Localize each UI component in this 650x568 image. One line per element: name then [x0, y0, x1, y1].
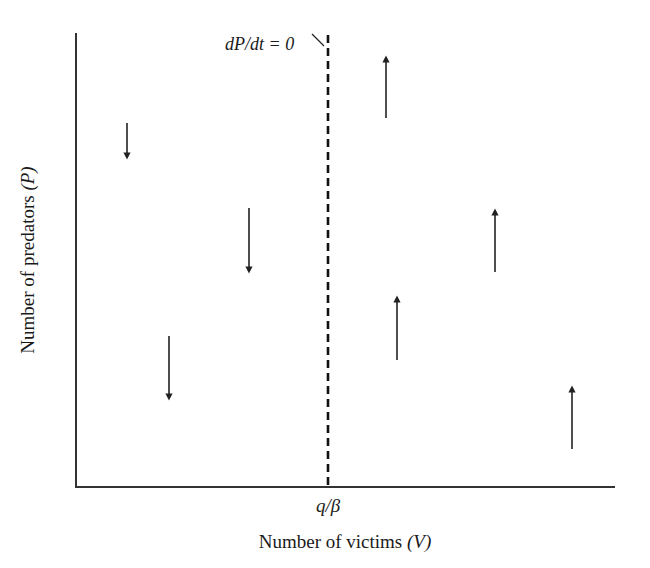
plot-area — [0, 0, 650, 568]
isocline-leader-line — [312, 34, 324, 46]
phase-plane-figure: Number of predators (P) Number of victim… — [0, 0, 650, 568]
y-axis-label: Number of predators (P) — [17, 166, 39, 353]
x-axis-label-var: (V) — [407, 531, 431, 552]
isocline-label: dP/dt = 0 — [225, 34, 294, 55]
arrow-group — [127, 59, 572, 449]
y-axis-label-var: (P) — [17, 166, 38, 190]
x-tick-label-q-over-beta: q/β — [316, 495, 340, 517]
x-axis-label-text: Number of victims — [259, 531, 407, 552]
x-axis-label: Number of victims (V) — [259, 531, 432, 553]
y-axis-label-text: Number of predators — [17, 191, 38, 354]
